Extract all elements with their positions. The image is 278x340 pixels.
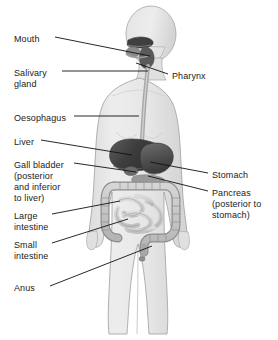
label-salivary-gland: Salivary gland	[14, 68, 47, 90]
label-gall-bladder: Gall bladder (posterior and inferior to …	[14, 160, 64, 204]
hand-left	[87, 231, 98, 250]
anus-leader	[50, 246, 152, 286]
label-oesophagus: Oesophagus	[14, 113, 66, 124]
leg-gap-line	[137, 246, 138, 334]
label-mouth: Mouth	[14, 34, 40, 45]
label-stomach: Stomach	[212, 170, 248, 181]
label-pancreas: Pancreas (posterior to stomach)	[212, 188, 261, 221]
mouth-cavity	[127, 37, 153, 48]
hand-right	[178, 231, 189, 250]
diagram-canvas: Mouth Salivary gland Oesophagus Liver Ga…	[0, 0, 278, 340]
label-small-intestine: Small intestine	[14, 240, 48, 262]
label-liver: Liver	[14, 137, 34, 148]
label-large-intestine: Large intestine	[14, 211, 48, 233]
label-anus: Anus	[14, 283, 35, 294]
label-pharynx: Pharynx	[172, 71, 206, 82]
